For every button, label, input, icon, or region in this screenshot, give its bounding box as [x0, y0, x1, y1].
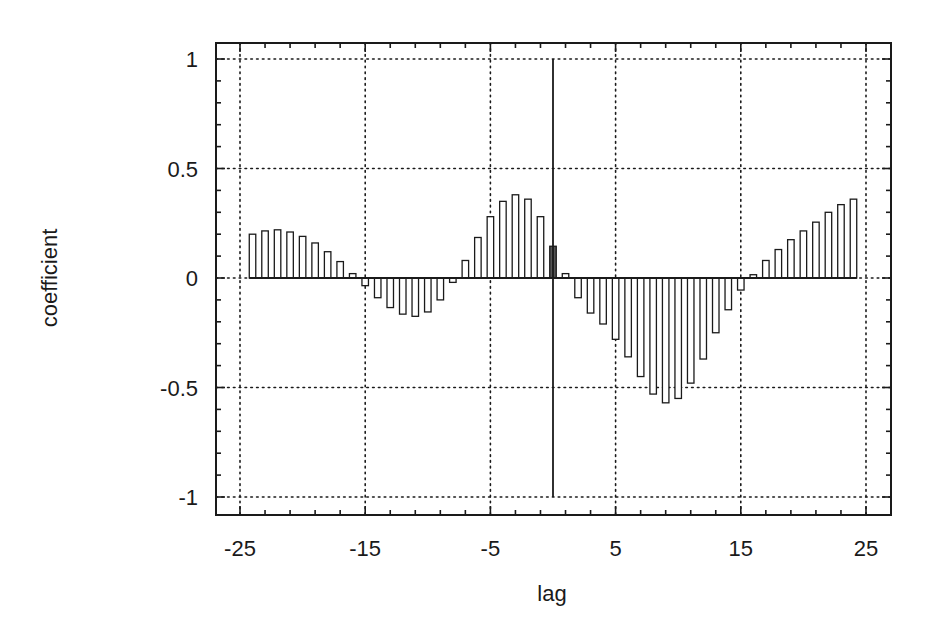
- bar-lag--3: [512, 195, 519, 278]
- x-tick-label: -25: [224, 536, 256, 561]
- bar-lag--4: [500, 201, 507, 278]
- y-tick-label: 0.5: [167, 157, 198, 182]
- x-tick-label: 15: [729, 536, 753, 561]
- bar-lag-17: [763, 260, 770, 278]
- bar-lag--11: [412, 278, 419, 316]
- bar-lag-22: [825, 212, 832, 278]
- bar-lag--5: [487, 217, 494, 278]
- y-axis-label: coefficient: [37, 229, 62, 328]
- y-tick-label: 1: [186, 47, 198, 72]
- bar-lag--19: [312, 243, 319, 278]
- y-tick-label: 0: [186, 266, 198, 291]
- bar-lag-15: [738, 278, 745, 290]
- bar-lag-8: [650, 278, 657, 394]
- bar-lag--22: [274, 230, 281, 278]
- bar-lag--13: [387, 278, 394, 308]
- bar-lag--1: [537, 217, 544, 278]
- bar-lag--17: [337, 262, 344, 278]
- cross-correlation-chart: -25-15-551525 10.50-0.5-1 lag coefficien…: [0, 0, 930, 635]
- x-tick-label: 25: [854, 536, 878, 561]
- bar-lag-24: [850, 199, 857, 278]
- bar-lag--21: [287, 232, 294, 278]
- y-tick-labels: 10.50-0.5-1: [160, 47, 198, 510]
- x-tick-label: -15: [349, 536, 381, 561]
- bar-lag--15: [362, 278, 369, 286]
- bar-lag-2: [575, 278, 582, 298]
- bar-lag--23: [262, 231, 269, 278]
- bar-lag-23: [838, 205, 845, 278]
- bar-lag-12: [700, 278, 707, 359]
- bar-lag--12: [400, 278, 407, 314]
- bar-lag-7: [637, 278, 644, 377]
- y-tick-label: -0.5: [160, 376, 198, 401]
- bar-lag--24: [249, 234, 256, 278]
- bar-lag-14: [725, 278, 732, 310]
- bar-lag-9: [662, 278, 669, 403]
- bar-lag--2: [525, 199, 532, 278]
- bar-lag-18: [775, 250, 782, 278]
- bar-lag-20: [800, 231, 807, 278]
- bar-lag--7: [462, 260, 469, 278]
- bar-lag--6: [475, 237, 482, 278]
- bar-lag--14: [374, 278, 381, 298]
- x-tick-label: -5: [481, 536, 501, 561]
- bar-lag-4: [600, 278, 607, 324]
- y-tick-label: -1: [178, 485, 198, 510]
- bar-lag--10: [425, 278, 432, 312]
- bar-lag-6: [625, 278, 632, 357]
- bar-lag--9: [437, 278, 444, 300]
- bar-lag-5: [612, 278, 619, 339]
- x-axis-label: lag: [537, 581, 566, 606]
- bar-lag-19: [788, 240, 795, 278]
- bar-lag-21: [813, 222, 820, 278]
- bar-lag-3: [587, 278, 594, 313]
- bar-lag--18: [324, 252, 331, 278]
- bar-lag--20: [299, 236, 306, 278]
- x-tick-label: 5: [609, 536, 621, 561]
- bar-lag-13: [713, 278, 720, 333]
- x-tick-labels: -25-15-551525: [224, 536, 878, 561]
- bar-lag-11: [687, 278, 694, 383]
- bar-lag-10: [675, 278, 682, 398]
